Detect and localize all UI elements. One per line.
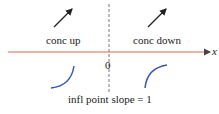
x-axis-label: x (212, 45, 217, 57)
slope-arrow-left-icon (54, 9, 72, 27)
concave-up-curve (51, 66, 74, 88)
slope-arrow-right-icon (148, 9, 166, 27)
inflection-point-label: infl point slope = 1 (68, 93, 152, 105)
conc-up-label: conc up (46, 34, 81, 46)
concave-down-curve (145, 65, 167, 88)
conc-down-label: conc down (133, 34, 181, 46)
origin-label: 0 (105, 59, 111, 71)
